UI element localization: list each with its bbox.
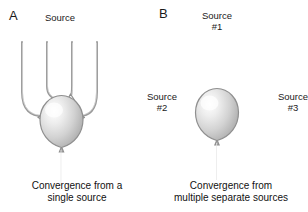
source-2-line-2: #2	[137, 103, 187, 114]
panel-b-caption: Convergence from multiple separate sourc…	[154, 180, 308, 204]
source-3-line-1: Source	[268, 92, 308, 103]
panel-a: A Source Convergence from a single sourc…	[0, 0, 154, 212]
soma-body	[196, 89, 239, 146]
source-1-line-1: Source	[190, 11, 244, 22]
panel-b-source-3-label: Source #3	[268, 92, 308, 113]
caption-line-2: single source	[0, 192, 154, 204]
convergence-figure: A Source Convergence from a single sourc…	[0, 0, 308, 212]
soma-highlight	[45, 103, 63, 118]
panel-a-source-label: Source	[33, 13, 87, 24]
panel-b-source-2-label: Source #2	[137, 92, 187, 113]
source-1-line-2: #1	[190, 22, 244, 33]
panel-b-letter: B	[159, 6, 168, 21]
panel-a-caption: Convergence from a single source	[0, 180, 154, 204]
caption-line-1: Convergence from a	[0, 180, 154, 192]
panel-b: B Source #1 Source #2 Source #3 Converge…	[154, 0, 308, 212]
caption-line-2: multiple separate sources	[154, 192, 308, 204]
soma-body	[40, 96, 83, 153]
soma-highlight	[201, 96, 219, 111]
panel-b-source-1-label: Source #1	[190, 11, 244, 32]
source-2-line-1: Source	[137, 92, 187, 103]
caption-line-1: Convergence from	[154, 180, 308, 192]
source-label-line-1: Source	[33, 13, 87, 24]
source-3-line-2: #3	[268, 103, 308, 114]
panel-a-letter: A	[9, 8, 18, 23]
